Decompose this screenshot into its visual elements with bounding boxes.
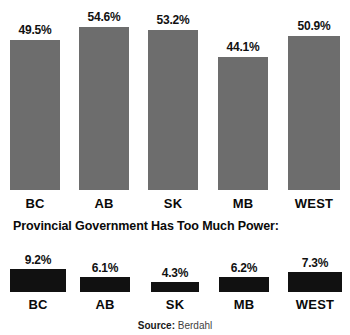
category-label-top-west: WEST	[288, 197, 340, 211]
value-label-bottom-west: 7.3%	[288, 257, 342, 270]
bottom-panel-heading: Provincial Government Has Too Much Power…	[13, 219, 279, 233]
category-label-bottom-bc: BC	[10, 298, 66, 312]
value-label-bottom-mb: 6.2%	[219, 262, 269, 275]
value-label-top-sk: 53.2%	[148, 14, 198, 27]
bar-bottom-west	[288, 272, 342, 292]
category-label-bottom-sk: SK	[151, 298, 199, 312]
value-label-top-bc: 49.5%	[10, 24, 60, 37]
category-label-top-sk: SK	[148, 197, 198, 211]
chart-figure: 49.5% 54.6% 53.2% 44.1% 50.9% BC AB SK M…	[0, 0, 350, 335]
value-label-top-ab: 54.6%	[79, 11, 129, 24]
bar-top-mb	[218, 57, 268, 190]
source-value-text: Berdahl	[178, 320, 212, 331]
value-label-bottom-ab: 6.1%	[80, 262, 130, 275]
bar-top-sk	[148, 30, 198, 190]
bar-bottom-sk	[151, 282, 199, 292]
source-label: Source:	[138, 320, 175, 331]
bar-bottom-mb	[219, 277, 269, 292]
value-label-top-west: 50.9%	[288, 20, 340, 33]
category-label-top-mb: MB	[218, 197, 268, 211]
bar-bottom-bc	[10, 269, 66, 292]
bar-top-ab	[79, 27, 129, 190]
bar-top-west	[288, 36, 340, 190]
category-label-bottom-west: WEST	[288, 298, 342, 312]
bar-bottom-ab	[80, 277, 130, 292]
source-note: Source: Berdahl	[0, 320, 350, 331]
category-label-bottom-ab: AB	[80, 298, 130, 312]
category-label-top-bc: BC	[10, 197, 60, 211]
value-label-bottom-sk: 4.3%	[151, 267, 199, 280]
category-label-bottom-mb: MB	[219, 298, 269, 312]
value-label-top-mb: 44.1%	[218, 41, 268, 54]
value-label-bottom-bc: 9.2%	[10, 254, 66, 267]
bar-top-bc	[10, 40, 60, 190]
category-label-top-ab: AB	[79, 197, 129, 211]
